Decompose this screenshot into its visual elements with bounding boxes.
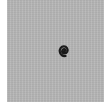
- image-tile[interactable]: [7, 0, 104, 102]
- spiral-icon: [57, 42, 71, 60]
